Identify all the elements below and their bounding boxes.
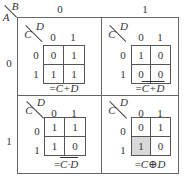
kmap-col-var: D xyxy=(36,97,46,108)
kmap-cell: 0 xyxy=(65,137,85,156)
outer-row-header-0: 0 xyxy=(3,58,15,69)
kmap-cell: 1 xyxy=(45,118,65,137)
kmap-expression-label: =C⊕D xyxy=(124,159,176,170)
kmap-col-var: D xyxy=(119,97,129,108)
kmap-cell: 1 xyxy=(44,65,64,84)
kmap-cell: 1 xyxy=(45,137,65,156)
kmap-row-var: C xyxy=(23,29,33,40)
kmap-a0-b0: D C 0 1 0 1 0 1 1 1 =C+D xyxy=(20,19,100,95)
kmap-row-header-1: 1 xyxy=(30,69,42,80)
kmap-col-header-0: 0 xyxy=(131,32,151,43)
outer-row-header-1: 1 xyxy=(3,136,15,147)
outer-col-header-1: 1 xyxy=(135,4,155,15)
kmap-row-var: C xyxy=(107,105,117,116)
kmap-cell: 0 xyxy=(132,118,151,137)
kmap-expression-label: =C·D xyxy=(40,159,92,170)
outer-row-var: A xyxy=(1,12,11,23)
kmap-cell: 1 xyxy=(65,118,85,137)
kmap-col-header-1: 1 xyxy=(150,32,170,43)
kmap-cell: 0 xyxy=(151,65,170,84)
kmap-row-header-0: 0 xyxy=(31,126,43,137)
kmap-cell: 1 xyxy=(64,46,84,65)
label-expr: C+D xyxy=(142,82,165,94)
kmap-expression-label: =C+D xyxy=(38,83,90,94)
kmap-cell: 0 xyxy=(151,137,170,156)
kmap-col-header-0: 0 xyxy=(43,32,63,43)
kmap-row-var: C xyxy=(107,29,117,40)
outer-bottom-line xyxy=(17,173,179,174)
kmap-grid: 0 1 1 1 xyxy=(43,45,85,84)
kmap-cell: 0 xyxy=(132,65,151,84)
kmap-row-var: C xyxy=(24,105,34,116)
kmap-cell: 0 xyxy=(44,46,64,65)
outer-top-line xyxy=(17,17,179,18)
outer-col-header-0: 0 xyxy=(50,4,70,15)
kmap-col-header-1: 1 xyxy=(63,32,83,43)
kmap-row-header-1: 1 xyxy=(31,145,43,156)
kmap-a1-b0: D C 0 1 0 1 1 1 1 0 =C·D xyxy=(20,96,100,172)
kmap-cell: 1 xyxy=(151,118,170,137)
kmap-grid: 1 0 0 0 xyxy=(131,45,171,84)
outer-mid-vertical xyxy=(101,17,102,174)
label-expr: C+D xyxy=(56,82,79,94)
kmap-grid: 0 1 1 0 xyxy=(131,117,171,156)
kmap-row-header-1: 1 xyxy=(117,69,129,80)
kmap-col-var: D xyxy=(35,21,45,32)
kmap-a0-b1: D C 0 1 0 1 1 0 0 0 =C+D xyxy=(104,19,178,95)
kmap-expression-label: =C+D xyxy=(124,83,176,94)
kmap-row-header-0: 0 xyxy=(30,50,42,61)
kmap-cell-shaded: 1 xyxy=(132,137,151,156)
kmap-col-var: D xyxy=(119,21,129,32)
kmap-a1-b1: D C 0 1 0 1 0 1 1 0 =C⊕D xyxy=(104,96,178,172)
kmap-row-header-1: 1 xyxy=(117,145,129,156)
kmap-cell: 1 xyxy=(132,46,151,65)
kmap-row-header-0: 0 xyxy=(117,126,129,137)
label-expr: C⊕D xyxy=(141,158,166,170)
outer-col-var: B xyxy=(10,1,20,12)
kmap-cell: 0 xyxy=(151,46,170,65)
kmap-cell: 1 xyxy=(64,65,84,84)
label-expr: C·D xyxy=(60,158,78,170)
kmap-grid: 1 1 1 0 xyxy=(44,117,86,156)
kmap-row-header-0: 0 xyxy=(117,50,129,61)
